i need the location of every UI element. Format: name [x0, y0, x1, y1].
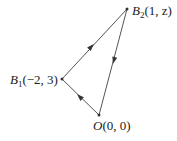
point-b2: [126, 8, 129, 11]
vector-diagram: B2(1, z) B1(−2, 3) O(0, 0): [0, 0, 177, 141]
label-o-name: O: [93, 118, 102, 133]
label-o-coords: (0, 0): [102, 118, 130, 133]
label-b2: B2(1, z): [132, 4, 172, 17]
label-b1-coords: (−2, 3): [22, 72, 58, 87]
arrow-icon-b2-o: [111, 56, 118, 64]
label-b2-name: B: [132, 3, 140, 18]
label-b2-coords: (1, z): [144, 3, 171, 18]
point-b1: [61, 78, 64, 81]
point-o: [98, 114, 101, 117]
label-b1: B1(−2, 3): [10, 73, 58, 86]
label-b1-name: B: [10, 72, 18, 87]
triangle-figure: [0, 0, 177, 141]
label-o: O(0, 0): [93, 119, 131, 132]
